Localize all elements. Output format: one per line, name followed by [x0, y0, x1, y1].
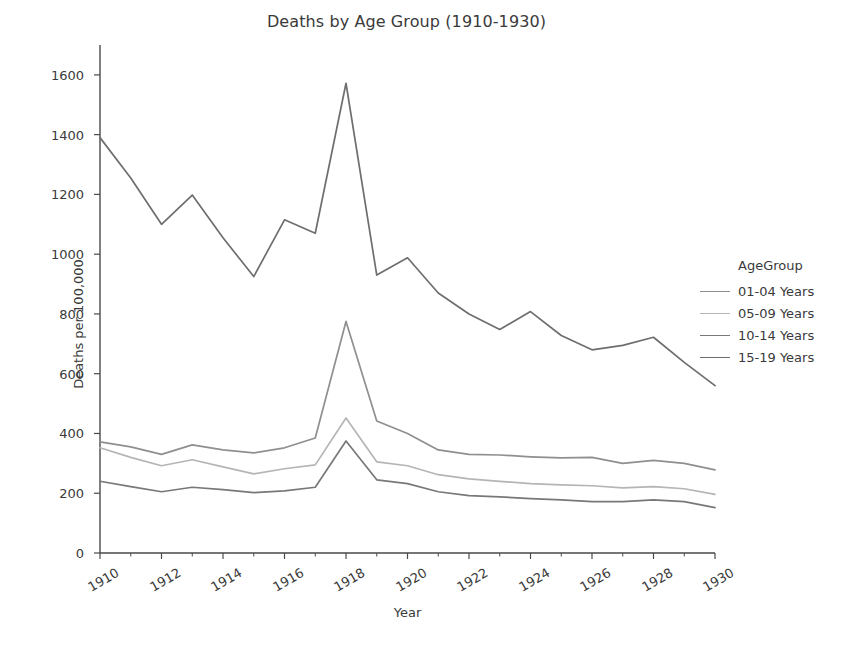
legend-label-0: 01-04 Years	[738, 284, 814, 299]
legend-swatch-icon-0	[700, 291, 730, 292]
legend-swatch-icon-2	[700, 335, 730, 336]
legend: AgeGroup 01-04 Years05-09 Years10-14 Yea…	[700, 258, 860, 368]
legend-items: 01-04 Years05-09 Years10-14 Years15-19 Y…	[700, 280, 860, 368]
legend-item-0[interactable]: 01-04 Years	[700, 280, 860, 302]
legend-swatch-icon-3	[700, 357, 730, 358]
legend-title: AgeGroup	[738, 258, 860, 273]
legend-label-2: 10-14 Years	[738, 328, 814, 343]
legend-item-3[interactable]: 15-19 Years	[700, 346, 860, 368]
chart-figure: Deaths by Age Group (1910-1930) Deaths p…	[0, 0, 867, 648]
legend-item-2[interactable]: 10-14 Years	[700, 324, 860, 346]
legend-swatch-icon-1	[700, 313, 730, 314]
legend-item-1[interactable]: 05-09 Years	[700, 302, 860, 324]
legend-label-1: 05-09 Years	[738, 306, 814, 321]
legend-label-3: 15-19 Years	[738, 350, 814, 365]
x-axis-label: Year	[100, 605, 715, 620]
